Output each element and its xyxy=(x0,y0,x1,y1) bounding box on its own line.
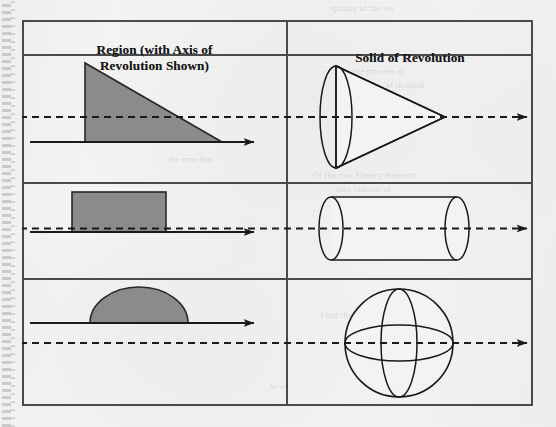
column-header-region-line2: Revolution Shown) xyxy=(22,58,287,74)
rectangle-region-shape xyxy=(72,192,166,232)
triangle-region-shape xyxy=(85,63,222,142)
table-graphics xyxy=(22,20,533,406)
column-header-region-line1: Region (with Axis of xyxy=(22,42,287,58)
cell-region-rectangle xyxy=(30,192,254,232)
column-header-solid: Solid of Revolution xyxy=(287,50,533,66)
solids-of-revolution-table: Region (with Axis of Revolution Shown) S… xyxy=(22,20,533,406)
semicircle-region-shape xyxy=(90,287,188,323)
column-header-region: Region (with Axis of Revolution Shown) xyxy=(22,42,287,73)
cell-region-semicircle xyxy=(30,287,254,323)
cell-region-triangle xyxy=(30,63,254,142)
column-header-solid-line1: Solid of Revolution xyxy=(287,50,533,66)
